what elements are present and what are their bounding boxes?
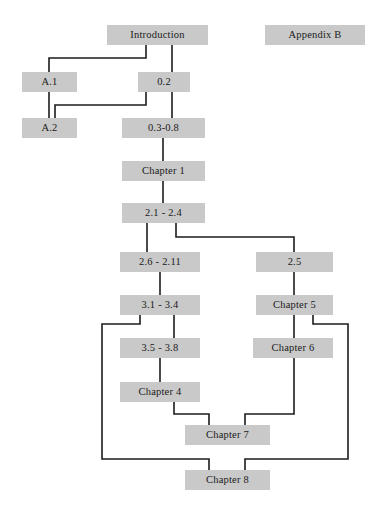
node-appendix-b[interactable]: Appendix B bbox=[265, 25, 365, 45]
node-s26-211[interactable]: 2.6 - 2.11 bbox=[120, 252, 200, 272]
node-s31-34[interactable]: 3.1 - 3.4 bbox=[120, 295, 200, 315]
edge-s21-24-to-s25 bbox=[176, 223, 294, 252]
node-chapter6[interactable]: Chapter 6 bbox=[253, 338, 333, 358]
flowchart-canvas: IntroductionAppendix BA.10.2A.20.3-0.8Ch… bbox=[0, 0, 389, 516]
node-introduction[interactable]: Introduction bbox=[107, 25, 208, 45]
edge-chapter6-to-chapter7 bbox=[245, 358, 294, 425]
node-s03-08[interactable]: 0.3-0.8 bbox=[122, 118, 205, 138]
edge-introduction-to-a1 bbox=[49, 45, 146, 72]
node-s35-38[interactable]: 3.5 - 3.8 bbox=[120, 338, 200, 358]
node-chapter1[interactable]: Chapter 1 bbox=[122, 161, 205, 181]
node-s25[interactable]: 2.5 bbox=[256, 252, 333, 272]
node-a2[interactable]: A.2 bbox=[22, 118, 77, 138]
edge-chapter4-to-chapter7 bbox=[174, 402, 209, 425]
node-a1[interactable]: A.1 bbox=[22, 72, 77, 92]
node-chapter4[interactable]: Chapter 4 bbox=[120, 382, 200, 402]
node-chapter8[interactable]: Chapter 8 bbox=[185, 470, 270, 490]
edge-s02-to-a2 bbox=[55, 92, 146, 118]
node-chapter5[interactable]: Chapter 5 bbox=[256, 295, 333, 315]
node-s02[interactable]: 0.2 bbox=[138, 72, 190, 92]
node-s21-24[interactable]: 2.1 - 2.4 bbox=[122, 203, 205, 223]
node-chapter7[interactable]: Chapter 7 bbox=[185, 425, 270, 445]
